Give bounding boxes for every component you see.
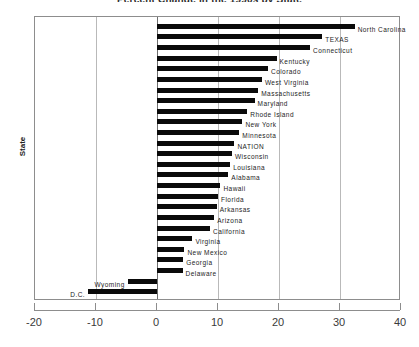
- y-axis-label: State: [18, 127, 27, 167]
- chart-title: Percent Change in the 1990s by State: [0, 0, 419, 2]
- bar-row: TEXAS: [35, 31, 401, 42]
- bar-row: Wisconsin: [35, 148, 401, 159]
- bar-row: North Carolina: [35, 21, 401, 32]
- bar: West Virginia: [157, 77, 262, 82]
- x-tick: [339, 303, 340, 310]
- x-tick-label: 10: [211, 316, 223, 328]
- bar-row: Arizona: [35, 212, 401, 223]
- bar: Kentucky: [157, 56, 277, 61]
- bar: NATION: [157, 141, 234, 146]
- x-tick: [95, 303, 96, 310]
- x-tick: [400, 303, 401, 310]
- bar: North Carolina: [157, 24, 355, 29]
- bar: Wyoming: [128, 279, 157, 284]
- x-tick-label: 30: [333, 316, 345, 328]
- bar: Rhode Island: [157, 109, 247, 114]
- bar: Maryland: [157, 98, 255, 103]
- bar: Louisiana: [157, 162, 230, 167]
- bar-row: New Mexico: [35, 244, 401, 255]
- x-tick: [156, 303, 157, 310]
- x-tick-label: -10: [87, 316, 103, 328]
- bar-row: D.C.: [35, 286, 401, 297]
- bar: Florida: [157, 194, 218, 199]
- bar-label: D.C.: [70, 289, 85, 300]
- bar: Massachusetts: [157, 88, 258, 93]
- bar-row: Colorado: [35, 63, 401, 74]
- x-tick: [34, 303, 35, 310]
- bar-row: Alabama: [35, 169, 401, 180]
- bar-row: Hawaii: [35, 180, 401, 191]
- bar: Minnesota: [157, 130, 239, 135]
- x-tick-label: -20: [26, 316, 42, 328]
- bar: Georgia: [157, 257, 183, 262]
- bar-row: Massachusetts: [35, 85, 401, 96]
- bar-row: Maryland: [35, 95, 401, 106]
- x-tick: [217, 303, 218, 310]
- bar-row: Virginia: [35, 233, 401, 244]
- bar-row: Minnesota: [35, 127, 401, 138]
- bar: Connecticut: [157, 45, 310, 50]
- x-tick-label: 0: [153, 316, 159, 328]
- bar: Arkansas: [157, 204, 217, 209]
- bar: Alabama: [157, 172, 228, 177]
- bar-row: New York: [35, 116, 401, 127]
- bar-row: Rhode Island: [35, 106, 401, 117]
- bar-row: Arkansas: [35, 201, 401, 212]
- bar-row: Wyoming: [35, 276, 401, 287]
- plot-area: North CarolinaTEXASConnecticutKentuckyCo…: [34, 16, 400, 300]
- x-tick: [278, 303, 279, 310]
- bar-row: NATION: [35, 138, 401, 149]
- x-axis: -20-10010203040: [34, 310, 400, 311]
- bar: Virginia: [157, 236, 192, 241]
- bar: Colorado: [157, 66, 268, 71]
- bar: Wisconsin: [157, 151, 232, 156]
- bar-row: Delaware: [35, 265, 401, 276]
- bar-row: Louisiana: [35, 159, 401, 170]
- x-tick-label: 20: [272, 316, 284, 328]
- bar-row: Georgia: [35, 254, 401, 265]
- bar: New York: [157, 119, 242, 124]
- bar: California: [157, 226, 210, 231]
- bar: TEXAS: [157, 34, 322, 39]
- bar: D.C.: [88, 289, 157, 294]
- bar: Hawaii: [157, 183, 220, 188]
- chart-root: Percent Change in the 1990s by State Sta…: [0, 0, 419, 347]
- bar-row: Kentucky: [35, 53, 401, 64]
- bar: New Mexico: [157, 247, 184, 252]
- bar: Delaware: [157, 268, 183, 273]
- bar-row: West Virginia: [35, 74, 401, 85]
- x-tick-label: 40: [394, 316, 406, 328]
- bar-row: Connecticut: [35, 42, 401, 53]
- bar-row: California: [35, 223, 401, 234]
- bar-row: Florida: [35, 191, 401, 202]
- bar: Arizona: [157, 215, 214, 220]
